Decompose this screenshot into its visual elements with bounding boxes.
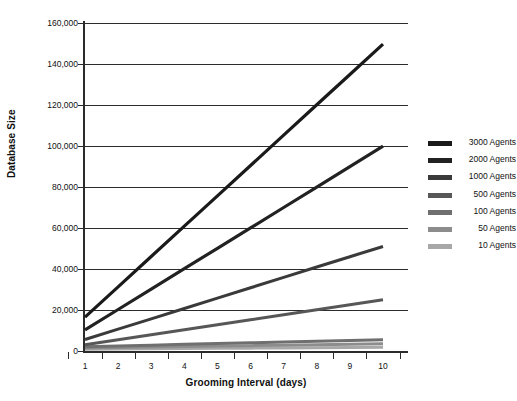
y-tick-label: 20,000: [22, 306, 78, 315]
y-tick-label: 120,000: [22, 101, 78, 110]
x-tick-mark: [201, 352, 202, 359]
legend-swatch: [428, 210, 452, 215]
y-tick-label: 100,000: [22, 142, 78, 151]
x-tick-label: 4: [169, 361, 199, 371]
x-tick-mark: [300, 352, 301, 359]
x-tick-label: 7: [269, 361, 299, 371]
legend-label: 1000 Agents: [454, 170, 516, 183]
y-tick-label: 0: [22, 347, 78, 356]
x-tick-label: 8: [302, 361, 332, 371]
legend-swatch: [428, 244, 452, 249]
plot-area: [84, 23, 408, 351]
x-tick-mark: [135, 352, 136, 359]
gridline: [84, 105, 408, 106]
gridline: [84, 64, 408, 65]
legend-label: 100 Agents: [454, 205, 516, 218]
y-tick-label: 140,000: [22, 60, 78, 69]
y-axis-title: Database Size: [6, 58, 17, 178]
x-tick-label: 2: [103, 361, 133, 371]
x-tick-label: 10: [368, 361, 398, 371]
legend-swatch: [428, 158, 452, 163]
legend-swatch: [428, 227, 452, 232]
x-tick-label: 3: [136, 361, 166, 371]
legend-swatch: [428, 175, 452, 180]
gridline: [84, 310, 408, 311]
x-tick-mark: [234, 352, 235, 359]
gridline: [84, 228, 408, 229]
x-axis-title: Grooming Interval (days): [84, 377, 408, 388]
legend-swatch: [428, 193, 452, 198]
x-tick-label: 6: [236, 361, 266, 371]
chart-container: Database Size 020,00040,00060,00080,0001…: [0, 0, 517, 401]
y-tick-label: 160,000: [22, 19, 78, 28]
gridline: [84, 146, 408, 147]
x-tick-label: 9: [335, 361, 365, 371]
x-tick-label: 5: [202, 361, 232, 371]
legend-swatch: [428, 141, 452, 146]
gridline: [84, 23, 408, 24]
y-tick-label: 40,000: [22, 265, 78, 274]
x-tick-mark: [68, 352, 69, 359]
gridline: [84, 187, 408, 188]
x-tick-mark: [267, 352, 268, 359]
legend-label: 500 Agents: [454, 188, 516, 201]
legend-label: 3000 Agents: [454, 136, 516, 149]
legend-label: 50 Agents: [454, 222, 516, 235]
x-tick-mark: [366, 352, 367, 359]
legend-label: 2000 Agents: [454, 153, 516, 166]
legend-label: 10 Agents: [454, 239, 516, 252]
y-tick-label: 80,000: [22, 183, 78, 192]
gridline: [84, 269, 408, 270]
y-axis-line: [83, 21, 85, 353]
x-tick-mark: [400, 352, 401, 359]
x-tick-mark: [333, 352, 334, 359]
y-tick-label: 60,000: [22, 224, 78, 233]
x-axis-line: [84, 351, 408, 353]
x-tick-label: 1: [70, 361, 100, 371]
x-tick-mark: [102, 352, 103, 359]
x-tick-mark: [168, 352, 169, 359]
